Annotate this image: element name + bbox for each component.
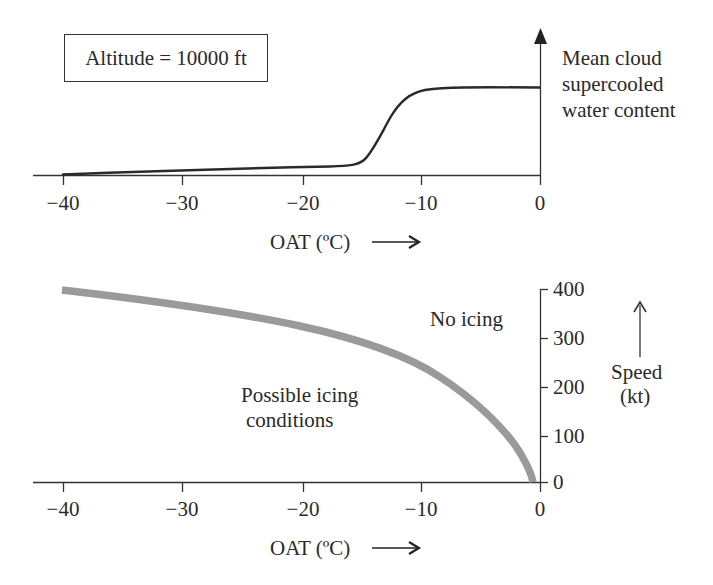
top-y-label-line-1: Mean cloud — [562, 46, 662, 70]
bottom-x-axis-label: OAT (ºC) — [270, 536, 350, 560]
bottom-x-tick-label: −10 — [391, 497, 451, 521]
bottom-y-ticks — [540, 290, 548, 483]
top-y-axis-arrow-icon — [534, 28, 547, 44]
top-x-tick-label: −10 — [391, 191, 451, 215]
top-y-label-line-3: water content — [562, 98, 676, 122]
bottom-y-tick-label: 100 — [553, 424, 585, 448]
top-x-tick-label: −20 — [273, 191, 333, 215]
bottom-x-tick-label: 0 — [510, 497, 570, 521]
speed-label-line-1: Speed — [611, 360, 662, 384]
bottom-y-tick-label: 200 — [553, 375, 585, 399]
altitude-label-box: Altitude = 10000 ft — [64, 34, 268, 82]
bottom-y-tick-label: 0 — [553, 470, 564, 494]
top-x-ticks — [64, 175, 422, 185]
bottom-y-tick-label: 300 — [553, 326, 585, 350]
icing-region-label-line-2: conditions — [246, 408, 334, 432]
bottom-x-tick-label: −20 — [273, 497, 333, 521]
no-icing-label: No icing — [430, 307, 503, 331]
top-x-tick-label: −40 — [33, 191, 93, 215]
bottom-x-tick-label: −40 — [33, 497, 93, 521]
bottom-y-tick-label: 400 — [553, 277, 585, 301]
bottom-x-ticks — [64, 482, 422, 492]
top-y-label-line-2: supercooled — [562, 72, 663, 96]
speed-label-line-2: (kt) — [620, 384, 650, 408]
altitude-label: Altitude = 10000 ft — [85, 46, 247, 70]
top-x-tick-label: −30 — [152, 191, 212, 215]
top-x-axis-label: OAT (ºC) — [270, 230, 350, 254]
icing-region-label-line-1: Possible icing — [241, 383, 358, 407]
bottom-x-tick-label: −30 — [152, 497, 212, 521]
water-content-curve — [63, 87, 540, 174]
top-x-tick-label: 0 — [510, 191, 570, 215]
